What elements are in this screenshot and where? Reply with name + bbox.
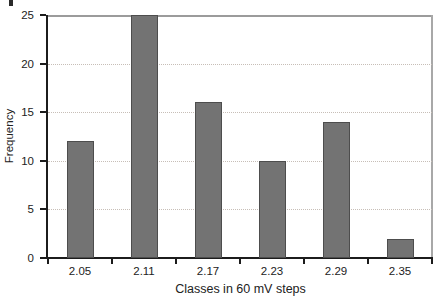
x-tick-label: 2.23	[242, 265, 302, 277]
y-tick	[40, 111, 46, 113]
x-axis-title: Classes in 60 mV steps	[48, 282, 433, 296]
plot-frame-top	[48, 15, 433, 17]
x-tick	[111, 259, 113, 264]
y-tick-label: 20	[0, 58, 34, 70]
x-tick	[303, 259, 305, 264]
bar	[387, 239, 414, 258]
bar	[131, 15, 158, 258]
bar	[323, 122, 350, 258]
x-tick	[239, 259, 241, 264]
y-tick-label: 10	[0, 155, 34, 167]
y-tick-label: 15	[0, 106, 34, 118]
y-tick	[40, 257, 46, 259]
y-tick-label: 25	[0, 9, 34, 21]
plot-frame-right	[431, 15, 433, 258]
y-tick	[40, 160, 46, 162]
x-tick	[367, 259, 369, 264]
x-tick-label: 2.11	[114, 265, 174, 277]
y-tick	[40, 208, 46, 210]
gridline	[48, 64, 432, 65]
bar	[67, 141, 94, 258]
gridline	[48, 209, 432, 210]
y-tick	[40, 63, 46, 65]
y-tick	[40, 14, 46, 16]
x-tick-label: 2.35	[370, 265, 430, 277]
x-tick	[175, 259, 177, 264]
bar	[259, 161, 286, 258]
y-axis-title: Frequency	[3, 86, 15, 186]
gridline	[48, 112, 432, 113]
y-tick-label: 0	[0, 252, 34, 264]
x-tick-label: 2.17	[178, 265, 238, 277]
y-tick-label: 5	[0, 203, 34, 215]
x-tick-label: 2.05	[50, 265, 110, 277]
x-tick	[47, 259, 49, 264]
y-axis-line	[46, 15, 48, 259]
x-tick-label: 2.29	[306, 265, 366, 277]
gridline	[48, 161, 432, 162]
x-tick	[431, 259, 433, 264]
histogram-figure: Frequency Classes in 60 mV steps 0510152…	[0, 0, 447, 304]
page-corner-mark	[9, 0, 13, 6]
bar	[195, 102, 222, 258]
